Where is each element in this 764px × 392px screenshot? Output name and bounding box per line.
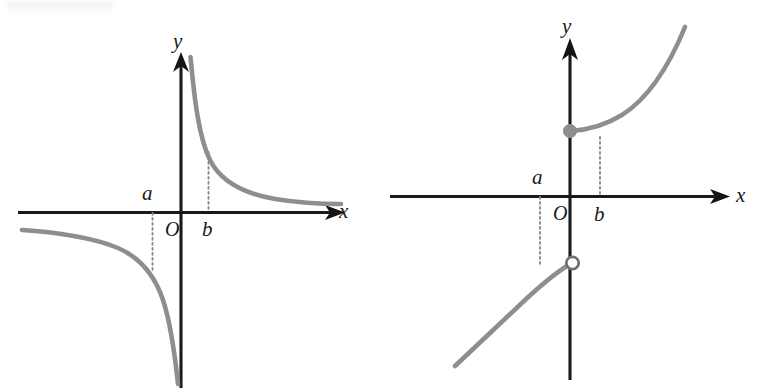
right-y-axis-label: y <box>560 14 572 38</box>
right-curve-upper-branch <box>571 27 685 131</box>
panel-left-hyperbola: x y O a b <box>0 0 382 392</box>
left-mark-label-b: b <box>202 217 213 241</box>
right-graph-svg: x y O a b <box>382 0 764 392</box>
left-curve-branch-positive <box>191 57 342 204</box>
right-endpoint-filled <box>563 124 576 137</box>
right-endpoint-open <box>566 257 578 269</box>
right-mark-label-b: b <box>594 202 605 226</box>
right-x-axis-label: x <box>735 183 746 207</box>
panel-right-discontinuity: x y O a b <box>382 0 764 392</box>
left-curve-branch-negative <box>22 230 178 384</box>
right-mark-label-a: a <box>532 165 543 189</box>
right-origin-label: O <box>553 202 567 224</box>
left-y-axis-label: y <box>171 29 183 53</box>
left-mark-label-a: a <box>142 181 153 205</box>
left-graph-svg: x y O a b <box>0 0 382 392</box>
figure-root: x y O a b <box>0 0 764 392</box>
left-x-axis-label: x <box>338 199 349 223</box>
left-origin-label: O <box>165 218 179 240</box>
right-curve-lower-branch <box>455 264 570 366</box>
